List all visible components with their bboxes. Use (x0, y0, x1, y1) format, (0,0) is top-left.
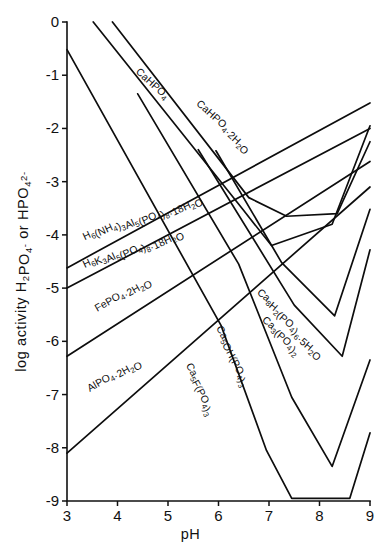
y-tick-label: -6 (46, 332, 59, 349)
x-tick-label: 8 (315, 507, 323, 524)
x-axis-title: pH (181, 526, 201, 542)
svg-text:FePO4·2H2O: FePO4·2H2O (93, 274, 154, 319)
chart-svg: 0-1-2-3-4-5-6-7-8-93456789pHlog activity… (0, 0, 390, 544)
svg-text:AlPO4·2H2O: AlPO4·2H2O (85, 355, 144, 398)
y-tick-label: -1 (46, 66, 59, 83)
y-tick-label: 0 (51, 13, 59, 30)
curve-label-ca5oh-po4-3: Ca5OH(PO4)3 (207, 324, 254, 390)
y-tick-label: -9 (46, 492, 59, 509)
y-tick-label: -2 (46, 119, 59, 136)
y-axis-title: log activity H2PO4- or HPO42- (13, 171, 34, 371)
y-tick-label: -7 (46, 386, 59, 403)
curve-label-ca5f-po4-3: Ca5F(PO4)3 (177, 361, 220, 419)
y-tick-label: -5 (46, 279, 59, 296)
x-tick-label: 6 (214, 507, 222, 524)
x-tick-label: 5 (164, 507, 172, 524)
svg-text:Ca5F(PO4)3: Ca5F(PO4)3 (177, 361, 220, 419)
svg-text:CaHPO4·2H2O: CaHPO4·2H2O (191, 98, 254, 157)
x-tick-label: 4 (113, 507, 121, 524)
y-tick-label: -8 (46, 439, 59, 456)
phosphate-solubility-chart: 0-1-2-3-4-5-6-7-8-93456789pHlog activity… (0, 0, 390, 544)
curve-label-alpo4-2h2o: AlPO4·2H2O (85, 355, 144, 398)
curve-label-fepo4-2h2o: FePO4·2H2O (93, 274, 154, 319)
y-tick-label: -3 (46, 173, 59, 190)
curve-label-cahpo4-2h2o: CaHPO4·2H2O (191, 98, 254, 157)
x-tick-label: 3 (63, 507, 71, 524)
svg-text:Ca5OH(PO4)3: Ca5OH(PO4)3 (207, 324, 254, 390)
x-tick-label: 9 (366, 507, 374, 524)
x-tick-label: 7 (265, 507, 273, 524)
y-tick-label: -4 (46, 226, 59, 243)
axes: 0-1-2-3-4-5-6-7-8-93456789pH (46, 13, 375, 542)
curve-ca5oh-po4-3 (138, 94, 370, 467)
curve-h6k3al5-po4-8-18h2o (67, 128, 370, 288)
svg-text:log activity H2PO4- or HPO42-: log activity H2PO4- or HPO42- (13, 171, 34, 371)
